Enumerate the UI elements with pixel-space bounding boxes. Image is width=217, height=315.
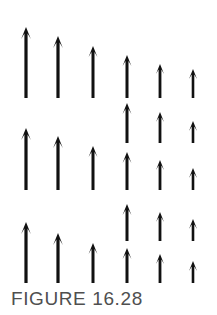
arrow-r3c6-lower — [189, 261, 197, 283]
arrow-r1c6 — [189, 69, 197, 98]
arrow-r3c4-upper — [123, 204, 132, 241]
arrow-r3c5-upper — [156, 212, 164, 241]
figure-container: FIGURE 16.28 — [0, 0, 217, 315]
arrow-r1c3-glyph — [89, 46, 98, 98]
arrow-r3c5-upper-glyph — [156, 212, 164, 241]
arrow-r2c1 — [21, 128, 31, 190]
arrow-r3c6-upper — [189, 219, 197, 241]
arrow-r3c6-upper-glyph — [189, 219, 197, 241]
arrow-r2c6-upper — [189, 121, 197, 143]
arrow-r1c1 — [21, 27, 31, 98]
arrow-r3c2 — [53, 233, 63, 283]
arrow-r3c5-lower — [156, 254, 164, 283]
arrow-r3c4-lower — [123, 248, 132, 283]
arrow-r2c3-glyph — [89, 146, 98, 190]
arrow-r3c5-lower-glyph — [156, 254, 164, 283]
arrow-r1c4 — [123, 55, 132, 98]
arrow-r3c4-lower-glyph — [123, 248, 132, 283]
arrow-r3c2-glyph — [53, 233, 63, 283]
arrow-r2c2 — [53, 136, 63, 190]
arrow-r2c6-upper-glyph — [189, 121, 197, 143]
arrow-r2c3 — [89, 146, 98, 190]
arrow-r3c3 — [89, 243, 98, 283]
arrow-r2c5-lower-glyph — [156, 160, 164, 190]
arrow-r3c1-glyph — [21, 222, 31, 283]
arrow-r2c2-glyph — [53, 136, 63, 190]
arrow-r3c3-glyph — [89, 243, 98, 283]
arrow-r2c5-lower — [156, 160, 164, 190]
arrow-r1c2-glyph — [53, 36, 63, 98]
arrow-r3c4-upper-glyph — [123, 204, 132, 241]
arrow-r1c2 — [53, 36, 63, 98]
arrow-r2c4-upper-glyph — [123, 103, 132, 143]
arrow-r2c1-glyph — [21, 128, 31, 190]
arrow-r1c5-glyph — [156, 64, 164, 98]
arrow-r2c4-upper — [123, 103, 132, 143]
arrow-r1c3 — [89, 46, 98, 98]
arrow-r2c4-lower — [123, 152, 132, 190]
arrow-r2c5-upper — [156, 112, 164, 143]
arrow-r2c6-lower — [189, 168, 197, 190]
arrow-r1c6-glyph — [189, 69, 197, 98]
arrow-r3c1 — [21, 222, 31, 283]
arrow-r2c5-upper-glyph — [156, 112, 164, 143]
arrow-r2c4-lower-glyph — [123, 152, 132, 190]
arrow-r2c6-lower-glyph — [189, 168, 197, 190]
arrow-r1c4-glyph — [123, 55, 132, 98]
arrow-r1c1-glyph — [21, 27, 31, 98]
arrow-field — [0, 0, 217, 285]
arrow-r3c6-lower-glyph — [189, 261, 197, 283]
figure-caption: FIGURE 16.28 — [11, 288, 143, 310]
arrow-r1c5 — [156, 64, 164, 98]
